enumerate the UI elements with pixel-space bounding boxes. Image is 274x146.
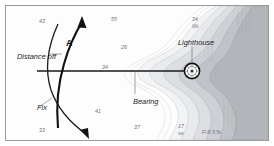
depth-sounding: 33	[39, 128, 45, 133]
depth-sounding: 37	[134, 125, 140, 130]
vessel-track-label: A	[66, 39, 73, 48]
depth-sounding: 41	[95, 109, 101, 114]
depth-sounding: 43	[39, 19, 45, 24]
chart-graphics	[6, 6, 268, 140]
bearing-label: Bearing	[133, 98, 158, 105]
arc-end-arrowhead	[80, 128, 89, 139]
depth-sounding: 26	[121, 45, 127, 50]
nautical-chart-figure: 43 55 26 34 41 33 37 34 Wk 17 sw Fl R 5.…	[0, 0, 274, 146]
shoal-depth-value: 17	[178, 124, 184, 129]
lighthouse-icon	[184, 63, 199, 78]
shoal-quality-label: sw	[178, 132, 184, 137]
depth-sounding: 55	[111, 17, 117, 22]
lighthouse-label: Lighthouse	[178, 39, 214, 46]
chart-frame: 43 55 26 34 41 33 37 34 Wk 17 sw Fl R 5.…	[5, 5, 269, 141]
distance-off-label: Distance off	[17, 53, 56, 60]
depth-sounding: 34	[102, 65, 108, 70]
wreck-quality-label: Wk	[192, 25, 199, 30]
wreck-depth-value: 34	[192, 17, 198, 22]
light-characteristic-label: Fl R 5.5s	[202, 131, 221, 136]
fix-label: Fix	[37, 104, 47, 111]
